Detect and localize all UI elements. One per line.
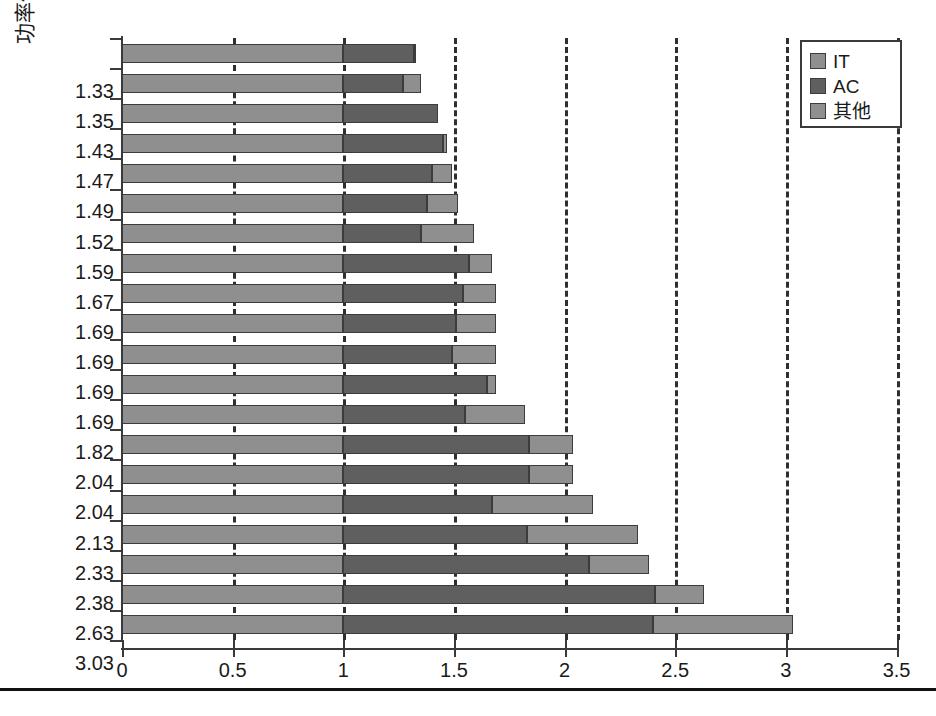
bar-segment-ac [343, 495, 491, 514]
y-axis-tick-label: 1.69 [38, 352, 114, 372]
y-axis-title-container: 功率使用有效性 (power usage effectiveness, PUE) [0, 38, 36, 640]
y-axis-tick-label: 2.38 [38, 593, 114, 613]
y-axis-tick-mark [110, 128, 121, 130]
bar-segment-其他 [487, 375, 496, 394]
bar-segment-ac [343, 284, 463, 303]
legend-swatch-icon [810, 78, 826, 94]
bar-segment-it [122, 345, 343, 364]
y-axis-tick-label: 1.33 [38, 81, 114, 101]
x-axis-tick-mark [565, 640, 567, 657]
bar-segment-其他 [443, 134, 447, 153]
y-axis-tick-label: 1.69 [38, 382, 114, 402]
bar-segment-it [122, 405, 343, 424]
bar-segment-ac [343, 224, 420, 243]
bar-segment-其他 [456, 314, 496, 333]
bar-segment-其他 [492, 495, 594, 514]
x-axis-tick-mark [675, 640, 677, 657]
y-axis-tick-label: 1.69 [38, 322, 114, 342]
x-axis-tick-mark [122, 640, 124, 657]
bar-segment-其他 [432, 164, 452, 183]
bar-row [122, 134, 897, 153]
chart-figure: 功率使用有效性 (power usage effectiveness, PUE)… [0, 0, 936, 716]
bar-row [122, 405, 897, 424]
bar-segment-it [122, 314, 343, 333]
bar-segment-it [122, 375, 343, 394]
bar-row [122, 284, 897, 303]
y-axis-tick-label: 1.67 [38, 292, 114, 312]
bar-segment-ac [343, 435, 529, 454]
y-axis-tick-mark [110, 98, 121, 100]
bar-segment-ac [343, 555, 589, 574]
bar-row [122, 254, 897, 273]
bar-row [122, 465, 897, 484]
bar-segment-其他 [421, 224, 474, 243]
bar-segment-it [122, 525, 343, 544]
y-axis-tick-mark [110, 369, 121, 371]
bar-segment-ac [343, 74, 403, 93]
bar-segment-其他 [463, 284, 496, 303]
bar-segment-it [122, 495, 343, 514]
bar-segment-其他 [589, 555, 649, 574]
y-axis-tick-label: 2.13 [38, 533, 114, 553]
x-axis-tick-label: 1.5 [440, 660, 468, 680]
bar-segment-it [122, 134, 343, 153]
y-axis-tick-label: 1.49 [38, 201, 114, 221]
y-axis-tick-label: 2.63 [38, 623, 114, 643]
bar-segment-it [122, 284, 343, 303]
x-axis-tick-label: 0.5 [219, 660, 247, 680]
bar-segment-其他 [452, 345, 496, 364]
bar-segment-it [122, 585, 343, 604]
bar-row [122, 525, 897, 544]
bar-segment-it [122, 224, 343, 243]
bar-row [122, 164, 897, 183]
bar-segment-it [122, 615, 343, 634]
legend-label: IT [833, 52, 850, 71]
x-axis-tick-label: 1 [338, 660, 349, 680]
bar-row [122, 495, 897, 514]
bar-segment-ac [343, 164, 432, 183]
x-axis-tick-mark [343, 640, 345, 657]
plot-area [122, 38, 897, 640]
y-axis-tick-label: 1.47 [38, 171, 114, 191]
bar-segment-ac [343, 375, 487, 394]
y-axis-tick-label: 1.82 [38, 442, 114, 462]
bar-segment-ac [343, 134, 443, 153]
bar-segment-it [122, 74, 343, 93]
chart-legend: ITAC其他 [800, 40, 902, 128]
y-axis-tick-label: 2.33 [38, 563, 114, 583]
bar-segment-it [122, 555, 343, 574]
y-axis-tick-label: 3.03 [38, 653, 114, 673]
y-axis-tick-label: 1.59 [38, 262, 114, 282]
bar-segment-it [122, 164, 343, 183]
bar-segment-ac [343, 345, 451, 364]
y-axis-tick-mark [110, 399, 121, 401]
bar-segment-其他 [465, 405, 525, 424]
bar-segment-其他 [529, 435, 573, 454]
y-axis-tick-mark [110, 580, 121, 582]
y-axis-tick-mark [110, 550, 121, 552]
bar-segment-it [122, 465, 343, 484]
y-axis-tick-label: 1.43 [38, 141, 114, 161]
bar-row [122, 435, 897, 454]
y-axis-tick-label: 1.35 [38, 111, 114, 131]
bar-segment-其他 [469, 254, 491, 273]
y-axis-tick-mark [110, 459, 121, 461]
bar-row [122, 44, 897, 63]
bar-segment-其他 [414, 44, 416, 63]
bar-segment-其他 [427, 194, 458, 213]
bar-segment-ac [343, 44, 414, 63]
x-axis-tick-label: 3 [780, 660, 791, 680]
bar-segment-ac [343, 585, 655, 604]
y-axis-tick-mark [110, 429, 121, 431]
y-axis-title: 功率使用有效性 (power usage effectiveness, PUE) [6, 0, 40, 110]
bar-segment-ac [343, 405, 465, 424]
legend-label: AC [833, 77, 859, 96]
bar-segment-ac [343, 194, 427, 213]
bar-row [122, 555, 897, 574]
bar-row [122, 345, 897, 364]
x-axis-tick-label: 0 [116, 660, 127, 680]
legend-item: IT [810, 49, 894, 73]
bar-row [122, 314, 897, 333]
bar-segment-it [122, 104, 343, 123]
bar-row [122, 224, 897, 243]
